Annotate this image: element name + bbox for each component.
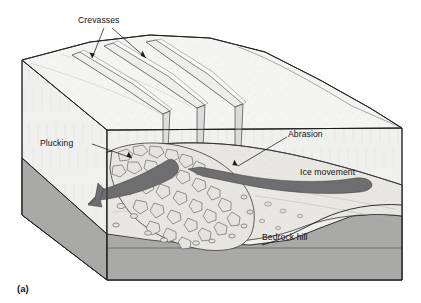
- rock-clast: [209, 239, 215, 243]
- rock-clast: [160, 238, 167, 242]
- label-ice-movement: Ice movement: [300, 168, 355, 177]
- figure-caption-label: (a): [17, 283, 29, 294]
- rock-clast: [265, 202, 272, 206]
- rock-clast: [113, 223, 119, 227]
- rock-clast: [193, 241, 200, 245]
- rock-clast: [247, 210, 253, 214]
- rock-clast: [241, 224, 247, 228]
- rock-clast: [259, 219, 265, 223]
- rock-clast: [275, 226, 280, 229]
- rock-clast: [130, 214, 137, 219]
- rock-clast: [241, 195, 247, 199]
- figure-container: Crevasses Plucking Abrasion Ice movement…: [0, 0, 421, 303]
- rock-clast: [145, 231, 152, 235]
- label-crevasses: Crevasses: [78, 16, 120, 25]
- rock-clast: [229, 234, 235, 238]
- label-abrasion: Abrasion: [288, 130, 323, 139]
- rock-clast: [297, 214, 303, 218]
- label-bedrock-hill: Bedrock hill: [262, 233, 308, 242]
- glacial-erosion-diagram: [0, 0, 421, 303]
- rock-clast: [117, 203, 125, 208]
- rock-clast: [280, 209, 286, 213]
- label-plucking: Plucking: [40, 139, 73, 148]
